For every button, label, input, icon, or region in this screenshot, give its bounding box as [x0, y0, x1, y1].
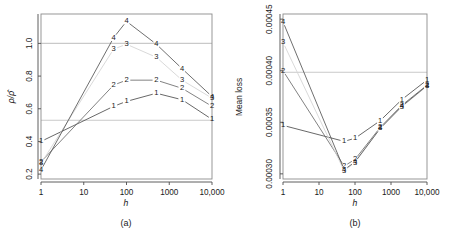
data-point-marker: 3	[154, 52, 158, 61]
chart-panel-a: 0.20.40.60.81.0 ρ/ρ̂ 110100100010,000 h …	[0, 0, 229, 232]
series-line	[287, 83, 424, 141]
y-tick-label: 0.2	[25, 168, 34, 180]
data-point-marker: 1	[39, 136, 43, 145]
panel-b-y-axis-title: Mean loss	[234, 78, 244, 116]
data-point-marker: 4	[180, 64, 184, 73]
series-2: 222222	[281, 66, 429, 170]
data-point-marker: 4	[425, 81, 429, 90]
data-point-marker: 1	[154, 88, 158, 97]
panel-a-svg: 0.20.40.60.81.0 ρ/ρ̂ 110100100010,000 h …	[0, 0, 229, 232]
x-tick-label: 10,000	[414, 188, 439, 197]
data-point-marker: 1	[342, 136, 346, 145]
data-point-marker: 4	[378, 123, 382, 132]
data-point-marker: 2	[281, 66, 285, 75]
data-point-marker: 1	[112, 101, 116, 110]
panel-b-y-axis: 0.000300.000350.000400.00045 Mean loss	[234, 4, 283, 189]
data-point-marker: 4	[154, 39, 158, 48]
y-tick-label: 1.0	[25, 37, 34, 49]
x-tick-label: 10	[79, 188, 89, 197]
data-point-marker: 2	[154, 75, 158, 84]
series-line	[285, 74, 423, 164]
panel-b-x-axis: 110100100010,000 h	[281, 182, 440, 208]
y-tick-label: 0.00035	[265, 107, 274, 137]
x-tick-labels: 110100100010,000	[39, 188, 225, 197]
data-point-marker: 4	[210, 92, 214, 101]
panel-a-label: (a)	[121, 218, 132, 228]
data-point-marker: 1	[210, 114, 214, 123]
panel-a-series-group: 111111222222333333444444	[39, 16, 214, 174]
y-tick-labels: 0.000300.000350.000400.00045	[265, 4, 274, 189]
data-point-marker: 4	[400, 101, 404, 110]
data-point-marker: 4	[342, 165, 346, 174]
x-tick-label: 1	[281, 188, 286, 197]
chart-panel-b: 0.000300.000350.000400.00045 Mean loss 1…	[229, 0, 458, 232]
panel-b-label: (b)	[350, 218, 361, 228]
data-point-marker: 3	[112, 44, 116, 53]
data-point-marker: 1	[180, 95, 184, 104]
y-tick-labels: 0.20.40.60.81.0	[25, 37, 34, 180]
x-tick-labels: 110100100010,000	[281, 188, 440, 197]
x-tick-label: 10,000	[199, 188, 224, 197]
y-tick-label: 0.00040	[265, 55, 274, 85]
panel-b-svg: 0.000300.000350.000400.00045 Mean loss 1…	[229, 0, 458, 232]
data-point-marker: 4	[112, 33, 116, 42]
x-tick-label: 100	[120, 188, 134, 197]
data-point-marker: 3	[124, 39, 128, 48]
data-point-marker: 4	[353, 157, 357, 166]
figure-root: 0.20.40.60.81.0 ρ/ρ̂ 110100100010,000 h …	[0, 0, 458, 232]
x-tick-label: 100	[348, 188, 362, 197]
data-point-marker: 3	[180, 75, 184, 84]
data-point-marker: 4	[124, 16, 128, 25]
data-point-marker: 1	[124, 96, 128, 105]
panel-b-series-group: 111111222222333333444444	[281, 17, 429, 175]
x-tick-label: 10	[314, 188, 324, 197]
y-tick-label: 0.4	[25, 135, 34, 147]
y-tick-label: 0.00030	[265, 159, 274, 189]
data-point-marker: 4	[281, 17, 285, 26]
y-tick-label: 0.00045	[265, 4, 274, 34]
data-point-marker: 2	[124, 75, 128, 84]
panel-b-x-axis-title: h	[353, 198, 358, 208]
panel-a-y-axis-title: ρ/ρ̂	[6, 89, 16, 104]
data-point-marker: 1	[353, 133, 357, 142]
y-tick-label: 0.8	[25, 70, 34, 82]
x-tick-label: 1000	[160, 188, 179, 197]
data-point-marker: 4	[39, 165, 43, 174]
panel-a-x-axis: 110100100010,000 h	[39, 182, 225, 208]
data-point-marker: 1	[281, 120, 285, 129]
data-point-marker: 3	[281, 37, 285, 46]
panel-a-x-axis-title: h	[124, 198, 129, 208]
panel-a-y-axis: 0.20.40.60.81.0 ρ/ρ̂	[6, 14, 41, 180]
x-tick-label: 1	[39, 188, 44, 197]
data-point-marker: 2	[180, 83, 184, 92]
x-tick-label: 1000	[382, 188, 401, 197]
y-tick-label: 0.6	[25, 103, 34, 115]
data-point-marker: 2	[112, 80, 116, 89]
data-point-marker: 2	[210, 101, 214, 110]
